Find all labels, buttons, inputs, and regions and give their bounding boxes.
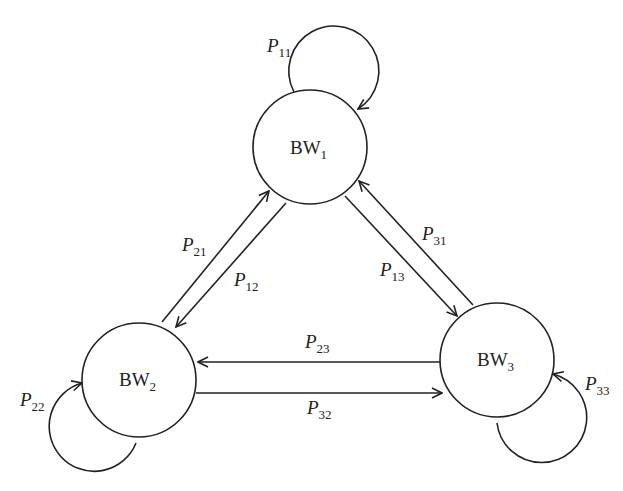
label-p32: P32 — [306, 397, 332, 422]
label-p33: P33 — [584, 373, 610, 398]
label-p13: P13 — [379, 259, 405, 284]
diagram-canvas: BW1 BW2 BW3 P11 P22 P33 P21 P12 P31 P13 … — [0, 0, 623, 491]
label-p11: P11 — [266, 35, 291, 60]
label-p12: P12 — [233, 269, 259, 294]
markov-diagram: BW1 BW2 BW3 P11 P22 P33 P21 P12 P31 P13 … — [0, 0, 623, 491]
label-p23: P23 — [304, 331, 330, 356]
edge-p13 — [345, 196, 457, 316]
label-p22: P22 — [19, 389, 45, 414]
label-p21: P21 — [181, 234, 207, 259]
edge-p21 — [162, 191, 269, 322]
edge-p12 — [176, 203, 286, 327]
edge-p31 — [359, 181, 473, 305]
label-p31: P31 — [421, 223, 447, 248]
